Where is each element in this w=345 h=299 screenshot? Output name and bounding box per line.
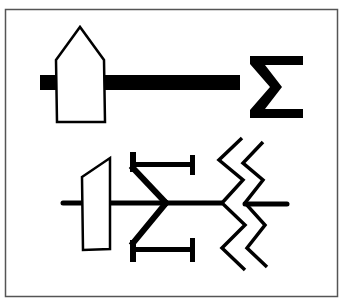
diagram-canvas bbox=[0, 0, 345, 299]
figure-frame bbox=[6, 10, 338, 297]
